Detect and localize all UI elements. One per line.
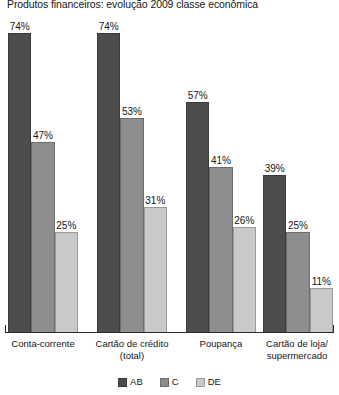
- bar-c-0[interactable]: [31, 142, 54, 333]
- category-label-1: Cartão de crédito(total): [89, 338, 175, 361]
- bar-column: 11%: [310, 14, 333, 333]
- bar-de-3[interactable]: [310, 288, 333, 333]
- category-label-0: Conta-corrente: [0, 338, 86, 350]
- bar-value-label: 31%: [145, 195, 165, 206]
- bar-ab-3[interactable]: [263, 175, 286, 333]
- bar-de-1[interactable]: [144, 207, 167, 333]
- legend-label: DE: [208, 377, 221, 387]
- bar-c-1[interactable]: [120, 118, 143, 333]
- bar-group: 74%53%31%: [97, 14, 167, 333]
- category-label-line: supermercado: [255, 350, 339, 362]
- bar-value-label: 25%: [56, 220, 76, 231]
- legend-swatch-icon: [196, 378, 205, 387]
- plot-area: 74%47%25%74%53%31%57%41%26%39%25%11%: [0, 14, 339, 333]
- bar-group: 39%25%11%: [263, 14, 333, 333]
- category-label-line: Cartão de loja/: [255, 338, 339, 350]
- category-label-2: Poupança: [178, 338, 264, 350]
- bar-column: 31%: [144, 14, 167, 333]
- bar-column: 39%: [263, 14, 286, 333]
- bar-c-2[interactable]: [209, 167, 232, 333]
- category-label-line: Poupança: [178, 338, 264, 350]
- bar-de-2[interactable]: [233, 227, 256, 333]
- legend-item-de[interactable]: DE: [196, 377, 221, 387]
- bar-value-label: 74%: [99, 21, 119, 32]
- bar-column: 47%: [31, 14, 54, 333]
- bar-column: 53%: [120, 14, 143, 333]
- bar-chart: Produtos financeiros: evolução 2009 clas…: [0, 0, 339, 395]
- category-label-line: (total): [89, 350, 175, 362]
- bar-de-0[interactable]: [55, 232, 78, 334]
- legend-swatch-icon: [118, 378, 127, 387]
- bar-value-label: 47%: [33, 130, 53, 141]
- legend-swatch-icon: [160, 378, 169, 387]
- bar-column: 25%: [286, 14, 309, 333]
- chart-title: Produtos financeiros: evolução 2009 clas…: [7, 0, 258, 10]
- bar-value-label: 11%: [312, 276, 331, 287]
- chart-legend: ABCDE: [0, 374, 339, 390]
- bar-value-label: 74%: [10, 21, 30, 32]
- axis-tick-left: [5, 325, 6, 333]
- x-axis-line: [5, 332, 334, 333]
- legend-item-c[interactable]: C: [160, 377, 179, 387]
- bar-group: 57%41%26%: [186, 14, 256, 333]
- bar-column: 25%: [55, 14, 78, 333]
- category-labels: Conta-correnteCartão de crédito(total)Po…: [0, 338, 339, 370]
- category-label-3: Cartão de loja/supermercado: [255, 338, 339, 361]
- bar-c-3[interactable]: [286, 232, 309, 334]
- bar-ab-1[interactable]: [97, 33, 120, 333]
- axis-tick-right: [333, 325, 334, 333]
- bar-value-label: 53%: [122, 106, 142, 117]
- bar-column: 41%: [209, 14, 232, 333]
- bar-column: 57%: [186, 14, 209, 333]
- legend-label: AB: [130, 377, 143, 387]
- bar-value-label: 41%: [211, 155, 231, 166]
- bar-value-label: 25%: [288, 220, 308, 231]
- bar-value-label: 26%: [234, 215, 254, 226]
- bar-ab-2[interactable]: [186, 102, 209, 333]
- bar-column: 74%: [97, 14, 120, 333]
- bar-value-label: 39%: [265, 163, 285, 174]
- bar-value-label: 57%: [188, 90, 208, 101]
- bar-column: 26%: [233, 14, 256, 333]
- legend-item-ab[interactable]: AB: [118, 377, 143, 387]
- bar-ab-0[interactable]: [8, 33, 31, 333]
- bar-column: 74%: [8, 14, 31, 333]
- legend-label: C: [172, 377, 179, 387]
- bar-group: 74%47%25%: [8, 14, 78, 333]
- category-label-line: Conta-corrente: [0, 338, 86, 350]
- category-label-line: Cartão de crédito: [89, 338, 175, 350]
